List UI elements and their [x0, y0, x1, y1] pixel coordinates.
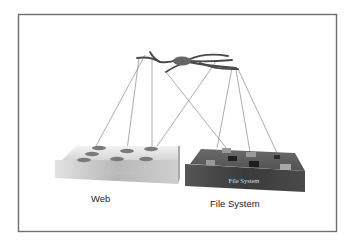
hub-ellipse — [173, 57, 191, 66]
file-system-caption: File System — [210, 198, 260, 209]
diagram-frame — [19, 15, 337, 232]
web-platform: Web Services — [55, 146, 180, 184]
fs-box-label: File System — [229, 177, 260, 184]
file-system-platform: File System — [185, 148, 305, 192]
web-box-label: Web Services — [99, 168, 135, 175]
diagram-canvas: Web Services File System Web File System — [0, 0, 355, 245]
web-caption: Web — [91, 193, 110, 204]
